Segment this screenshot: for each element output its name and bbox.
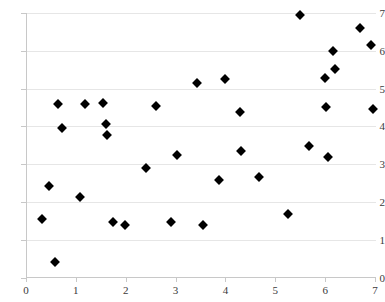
- x-tick: [76, 277, 77, 282]
- data-point: [283, 209, 293, 219]
- x-tick: [126, 277, 127, 282]
- gridline: [26, 126, 376, 127]
- data-point: [236, 146, 246, 156]
- data-point: [120, 220, 130, 230]
- gridline: [26, 13, 376, 14]
- data-point: [44, 181, 54, 191]
- x-tick: [325, 277, 326, 282]
- x-tick-label: 1: [66, 285, 86, 296]
- x-tick-label: 0: [16, 285, 36, 296]
- y-tick-label: 3: [367, 159, 385, 170]
- data-point: [166, 217, 176, 227]
- data-point: [57, 123, 67, 133]
- data-point: [53, 100, 63, 110]
- x-tick-label: 4: [215, 285, 235, 296]
- data-point: [330, 64, 340, 74]
- y-tick: [21, 126, 26, 127]
- data-point: [328, 46, 338, 56]
- data-point: [214, 175, 224, 185]
- data-point: [80, 99, 90, 109]
- x-tick: [375, 277, 376, 282]
- data-point: [321, 103, 331, 113]
- x-axis-line: [26, 277, 376, 278]
- y-tick: [21, 51, 26, 52]
- gridline: [26, 202, 376, 203]
- scatter-chart: 01234567 01234567: [0, 0, 385, 302]
- y-tick: [21, 89, 26, 90]
- data-point: [50, 257, 60, 267]
- gridline: [26, 89, 376, 90]
- data-point: [151, 101, 161, 111]
- plot-area: [26, 13, 376, 278]
- gridline: [26, 164, 376, 165]
- y-tick: [21, 202, 26, 203]
- data-point: [355, 23, 365, 33]
- y-tick-label: 4: [367, 121, 385, 132]
- data-point: [102, 130, 112, 140]
- y-axis-line: [26, 13, 27, 278]
- data-point: [295, 10, 305, 20]
- x-tick-label: 2: [116, 285, 136, 296]
- gridline: [26, 51, 376, 52]
- y-tick: [21, 240, 26, 241]
- data-point: [75, 192, 85, 202]
- data-point: [320, 73, 330, 83]
- x-tick-label: 6: [315, 285, 335, 296]
- x-tick-label: 3: [166, 285, 186, 296]
- x-tick: [26, 277, 27, 282]
- data-point: [198, 220, 208, 230]
- data-point: [108, 217, 118, 227]
- x-tick: [275, 277, 276, 282]
- data-point: [220, 74, 230, 84]
- y-tick: [21, 13, 26, 14]
- x-tick-label: 5: [265, 285, 285, 296]
- y-tick-label: 2: [367, 197, 385, 208]
- y-tick-label: 1: [367, 235, 385, 246]
- data-point: [254, 172, 264, 182]
- data-point: [37, 214, 47, 224]
- y-tick-label: 0: [367, 273, 385, 284]
- y-tick-label: 7: [367, 8, 385, 19]
- x-tick-label: 7: [365, 285, 385, 296]
- data-point: [98, 98, 108, 108]
- y-tick: [21, 164, 26, 165]
- data-point: [235, 107, 245, 117]
- data-point: [368, 104, 378, 114]
- gridline: [26, 240, 376, 241]
- y-tick-label: 5: [367, 84, 385, 95]
- data-point: [192, 78, 202, 88]
- data-point: [323, 152, 333, 162]
- data-point: [304, 141, 314, 151]
- data-point: [172, 150, 182, 160]
- x-tick: [176, 277, 177, 282]
- data-point: [101, 120, 111, 130]
- x-tick: [225, 277, 226, 282]
- y-tick-label: 6: [367, 46, 385, 57]
